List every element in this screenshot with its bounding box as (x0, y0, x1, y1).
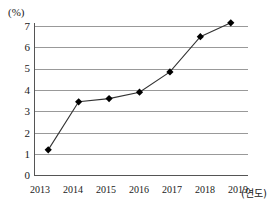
data-point-2015 (105, 95, 112, 102)
data-line (48, 23, 231, 150)
data-point-2013 (45, 146, 52, 153)
data-point-2019 (227, 19, 234, 26)
data-point-2014 (75, 98, 82, 105)
data-point-2016 (136, 89, 143, 96)
plot-area (0, 0, 270, 208)
line-chart: (%) (연도) 7 6 5 4 3 2 1 0 2013 2014 2015 … (0, 0, 270, 208)
